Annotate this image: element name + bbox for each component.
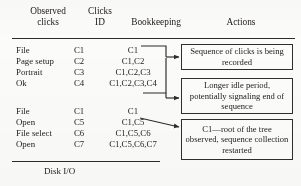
row-observed-click: File select [16,128,52,138]
row-bookkeeping: C1,C2,C3,C4 [100,78,166,88]
row-observed-click: File [16,45,30,55]
row-bookkeeping: C1 [100,106,166,116]
row-click-id: C2 [74,56,100,66]
row-observed-click: Open [16,117,35,127]
row-click-id: C6 [74,128,100,138]
column-header-clicks-id: Clicks ID [80,6,120,27]
row-bookkeeping: C1,C5,C6,C7 [100,139,166,149]
click-sequence-bookkeeping-figure: Observed clicks Clicks ID Bookkeeping Ac… [0,0,301,186]
row-bookkeeping: C1,C2,C3 [100,67,166,77]
footer-divider-rule [12,161,160,162]
row-click-id: C4 [74,78,100,88]
row-observed-click: File [16,106,30,116]
header-divider-rule [12,38,295,39]
column-header-actions: Actions [196,17,286,28]
row-bookkeeping: C1,C5 [100,117,166,127]
row-observed-click: Ok [16,78,27,88]
row-click-id: C5 [74,117,100,127]
column-header-bookkeeping: Bookkeeping [118,17,194,28]
row-bookkeeping: C1,C2 [100,56,166,66]
action-box-idle-period: Longer idle period, potentially signalin… [181,78,293,114]
row-bookkeeping: C1,C5,C6 [100,128,166,138]
footer-label-disk-io: Disk I/O [44,166,75,176]
row-click-id: C1 [74,106,100,116]
row-click-id: C1 [74,45,100,55]
row-observed-click: Open [16,139,35,149]
row-observed-click: Page setup [16,56,54,66]
row-click-id: C7 [74,139,100,149]
action-box-root-restart: C1—root of the tree observed, sequence c… [181,119,293,160]
column-header-observed-clicks: Observed clicks [18,6,78,27]
action-box-sequence-recorded: Sequence of clicks is being recorded [181,44,293,70]
row-observed-click: Portrait [16,67,42,77]
row-bookkeeping: C1 [100,45,166,55]
row-click-id: C3 [74,67,100,77]
